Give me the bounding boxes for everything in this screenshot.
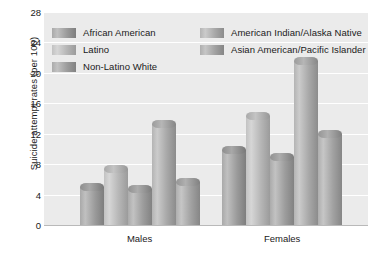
legend-item[interactable]: Non-Latino White bbox=[52, 58, 157, 75]
legend-item[interactable]: Asian American/Pacific Islander bbox=[200, 41, 366, 58]
bar-cap bbox=[152, 120, 176, 128]
bar-body bbox=[294, 61, 318, 225]
legend-item[interactable]: American Indian/Alaska Native bbox=[200, 24, 366, 41]
legend-swatch-icon bbox=[52, 45, 76, 55]
bar-cap bbox=[294, 57, 318, 65]
bar-cap bbox=[176, 178, 200, 186]
bar-body bbox=[128, 189, 152, 226]
x-category-label-females: Females bbox=[264, 233, 300, 244]
bar bbox=[152, 120, 176, 225]
bar-body bbox=[104, 169, 128, 225]
legend-column-right: American Indian/Alaska NativeAsian Ameri… bbox=[200, 24, 366, 58]
legend-item[interactable]: Latino bbox=[52, 41, 157, 58]
bar-cap bbox=[246, 112, 270, 120]
bar-body bbox=[222, 150, 246, 225]
bar bbox=[318, 130, 342, 225]
bar-body bbox=[246, 116, 270, 225]
bar-body bbox=[152, 124, 176, 225]
bar bbox=[176, 178, 200, 225]
legend-swatch-icon bbox=[200, 28, 224, 38]
bar-cap bbox=[270, 153, 294, 161]
legend-swatch-icon bbox=[52, 28, 76, 38]
bar-cap bbox=[318, 130, 342, 138]
legend-item-label: American Indian/Alaska Native bbox=[231, 27, 362, 38]
suicide-attempt-rates-bar-chart: Suicide attempt rates (per 100) 28 24 20… bbox=[0, 0, 381, 258]
y-tick-label-12: 12 bbox=[11, 128, 41, 139]
bar bbox=[128, 185, 152, 226]
gridline-0 bbox=[44, 225, 368, 226]
bar bbox=[80, 183, 104, 225]
bar bbox=[104, 165, 128, 225]
bar bbox=[270, 153, 294, 225]
bar bbox=[294, 57, 318, 225]
y-tick-label-0: 0 bbox=[11, 220, 41, 231]
legend-item[interactable]: African American bbox=[52, 24, 157, 41]
bar bbox=[246, 112, 270, 225]
x-category-label-males: Males bbox=[127, 233, 152, 244]
y-tick-label-24: 24 bbox=[11, 37, 41, 48]
legend-item-label: Non-Latino White bbox=[83, 61, 157, 72]
legend-swatch-icon bbox=[52, 62, 76, 72]
legend-item-label: African American bbox=[83, 27, 156, 38]
bar-body bbox=[80, 187, 104, 225]
bar-body bbox=[318, 134, 342, 225]
y-tick-label-4: 4 bbox=[11, 189, 41, 200]
y-tick-label-8: 8 bbox=[11, 159, 41, 170]
legend-item-label: Asian American/Pacific Islander bbox=[231, 44, 366, 55]
bar-cap bbox=[104, 165, 128, 173]
y-tick-label-20: 20 bbox=[11, 67, 41, 78]
legend-column-left: African AmericanLatinoNon-Latino White bbox=[52, 24, 157, 75]
bar-body bbox=[270, 157, 294, 225]
legend-item-label: Latino bbox=[83, 44, 109, 55]
bar-body bbox=[176, 182, 200, 225]
legend-swatch-icon bbox=[200, 45, 224, 55]
bar bbox=[222, 146, 246, 225]
y-tick-label-16: 16 bbox=[11, 98, 41, 109]
bar-cap bbox=[80, 183, 104, 191]
y-tick-label-28: 28 bbox=[11, 7, 41, 18]
bar-cap bbox=[222, 146, 246, 154]
bar-cap bbox=[128, 185, 152, 193]
